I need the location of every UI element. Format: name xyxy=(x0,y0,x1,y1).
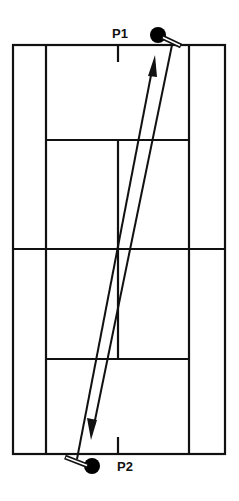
arrowhead-down-icon xyxy=(87,418,97,440)
player-label-p1: P1 xyxy=(112,26,128,41)
tennis-court-diagram: P1 P2 xyxy=(0,0,239,501)
arrowhead-up-icon xyxy=(148,55,157,77)
player-label-p2: P2 xyxy=(117,459,133,474)
player-p2: P2 xyxy=(65,457,133,474)
court xyxy=(13,45,225,454)
player-p1: P1 xyxy=(112,26,181,46)
shot-p1-to-p2 xyxy=(87,45,172,440)
